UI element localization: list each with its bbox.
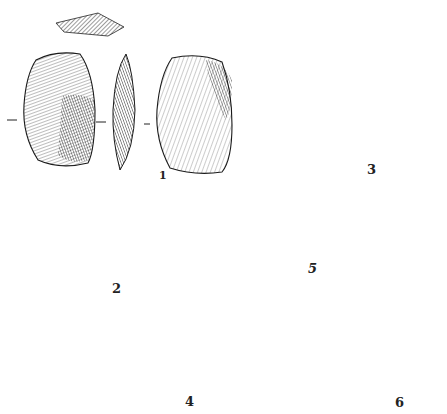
fig1-cross-section (56, 13, 124, 36)
fig1-dorsal-dark-facet (58, 95, 94, 162)
figure-label-4: 4 (185, 395, 194, 408)
figure-label-1: 1 (159, 170, 167, 181)
figure-label-6: 6 (395, 396, 404, 409)
figure-label-3: 3 (367, 163, 376, 176)
artifact-plate (0, 0, 447, 414)
figure-label-2: 2 (112, 282, 121, 295)
fig1-profile-view (113, 54, 135, 170)
figure-1 (7, 13, 232, 173)
figure-label-5: 5 (308, 262, 317, 275)
